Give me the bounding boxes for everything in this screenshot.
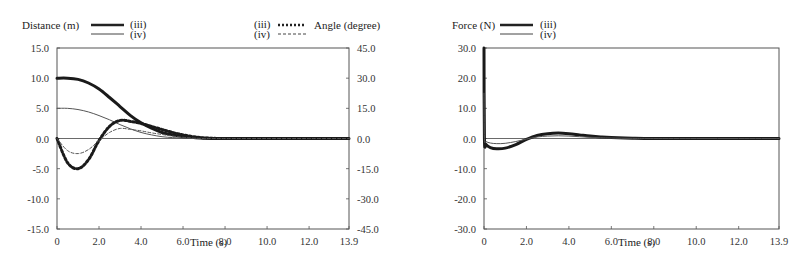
legend-label-force-iv: (iv) [540, 28, 556, 41]
angle-axis-title: Angle (degree) [314, 19, 381, 32]
chart-canvas: Distance (m) (iii) (iv) (iii) (iv) Angle… [0, 0, 800, 279]
series-line [57, 120, 349, 169]
distance-axis-title: Distance (m) [22, 19, 79, 32]
x-tick-label: 2.0 [520, 236, 533, 247]
y-tick-label: 0.0 [36, 134, 49, 145]
y-right-tick-label: -15.0 [357, 164, 379, 175]
y-tick-label: 10.0 [458, 103, 476, 114]
series-line [484, 48, 779, 149]
x-tick-label: 12.0 [729, 236, 747, 247]
legend-label-angle-iv: (iv) [254, 28, 270, 41]
y-right-tick-label: 15.0 [357, 103, 375, 114]
legend-label-distance-iv: (iv) [130, 28, 146, 41]
y-axis-ticks-left: 15.010.05.00.0-5.0-10.0-15.0 [27, 43, 60, 235]
y-right-tick-label: 0.0 [357, 134, 370, 145]
x-tick-label: 13.9 [770, 236, 788, 247]
series-group-force [484, 48, 779, 149]
x-tick-label: 2.0 [92, 236, 105, 247]
y-tick-label: -10.0 [27, 194, 49, 205]
y-tick-label: 5.0 [36, 103, 49, 114]
series-group [57, 78, 349, 169]
y-tick-label: 10.0 [31, 73, 49, 84]
x-tick-label: 4.0 [562, 236, 575, 247]
force-axis-title: Force (N) [452, 19, 495, 32]
x-axis-title: Time (s) [190, 236, 228, 249]
y-right-tick-label: -30.0 [357, 194, 379, 205]
x-tick-label: 6.0 [176, 236, 189, 247]
series-line [484, 93, 779, 143]
x-axis-title-force: Time (s) [618, 236, 656, 249]
y-right-tick-label: -45.0 [357, 224, 379, 235]
series-line [57, 128, 349, 153]
y-tick-label: 0.0 [463, 134, 476, 145]
y-right-tick-label: 30.0 [357, 73, 375, 84]
y-right-tick-label: 45.0 [357, 43, 375, 54]
x-tick-label: 12.0 [300, 236, 318, 247]
force-chart: Force (N) (iii) (iv) 30.020.010.00.0-10.… [452, 18, 788, 249]
y-tick-label: -30.0 [454, 224, 476, 235]
x-tick-label: 6.0 [605, 236, 618, 247]
series-line [57, 108, 349, 138]
y-tick-label: 15.0 [31, 43, 49, 54]
series-line [57, 78, 349, 138]
y-tick-label: -5.0 [32, 164, 49, 175]
y-tick-label: 30.0 [458, 43, 476, 54]
y-tick-label: 20.0 [458, 73, 476, 84]
y-tick-label: -15.0 [27, 224, 49, 235]
distance-angle-chart: Distance (m) (iii) (iv) (iii) (iv) Angle… [22, 18, 381, 249]
x-tick-label: 0 [481, 236, 486, 247]
y-axis-ticks-force: 30.020.010.00.0-10.0-20.0-30.0 [454, 43, 487, 235]
y-axis-ticks-right: 45.030.015.00.0-15.0-30.0-45.0 [346, 43, 379, 235]
x-tick-label: 10.0 [687, 236, 705, 247]
y-tick-label: -10.0 [454, 164, 476, 175]
x-tick-label: 13.9 [340, 236, 358, 247]
x-tick-label: 0 [54, 236, 59, 247]
x-tick-label: 4.0 [134, 236, 147, 247]
x-tick-label: 10.0 [258, 236, 276, 247]
y-tick-label: -20.0 [454, 194, 476, 205]
